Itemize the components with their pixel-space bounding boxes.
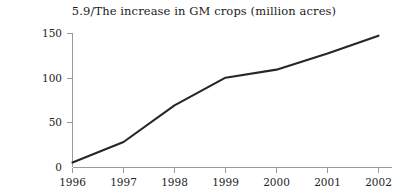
x-tick-label-1998: 1998 [161,176,188,188]
x-tick-label-2000: 2000 [263,176,290,188]
x-tick-label-1996: 1996 [59,176,86,188]
x-tick-label-1999: 1999 [212,176,239,188]
y-tick-label-150: 150 [42,27,62,39]
x-tick-label-2001: 2001 [314,176,341,188]
line-chart-plot: 150 100 50 0 1996 1997 1998 1999 2000 20… [0,0,408,196]
data-series-line [73,36,379,163]
x-tick-label-1997: 1997 [110,176,137,188]
y-tick-label-100: 100 [42,72,62,84]
x-tick-label-2002: 2002 [365,176,392,188]
y-tick-label-0: 0 [55,161,62,173]
chart-figure: 5.9/The increase in GM crops (million ac… [0,0,408,196]
y-tick-label-50: 50 [49,116,62,128]
